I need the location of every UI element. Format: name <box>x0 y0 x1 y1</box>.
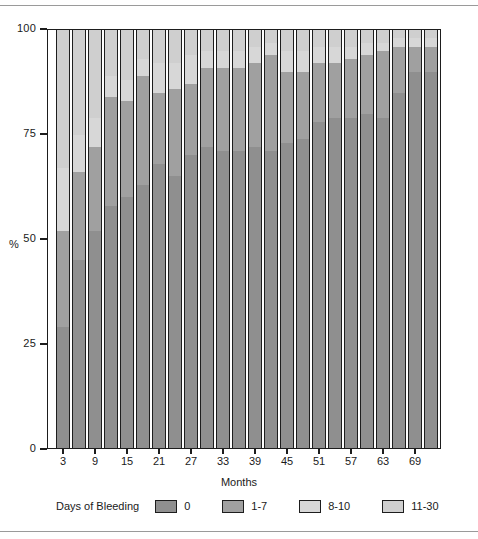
y-axis-tick-label: 0 <box>0 443 36 454</box>
bar-segment <box>313 63 325 122</box>
bar[interactable] <box>120 30 134 448</box>
legend-item[interactable]: 0 <box>155 500 190 513</box>
bar-segment <box>105 76 117 97</box>
bar-segment <box>105 30 117 76</box>
bar-segment <box>89 30 101 118</box>
x-axis-tick-mark <box>126 449 128 454</box>
legend-swatch <box>299 500 321 513</box>
bar[interactable] <box>264 30 278 448</box>
bar[interactable] <box>360 30 374 448</box>
bar-segment <box>169 89 181 177</box>
bar[interactable] <box>72 30 86 448</box>
bar-segment <box>57 30 69 168</box>
x-axis-tick-mark <box>350 449 352 454</box>
x-axis-tick-label: 51 <box>304 455 334 468</box>
bar-segment <box>361 43 373 56</box>
bar-segment <box>361 55 373 114</box>
x-axis-tick-label: 9 <box>80 455 110 468</box>
bar-segment <box>169 30 181 63</box>
bar[interactable] <box>168 30 182 448</box>
bar-segment <box>297 30 309 51</box>
bar-segment <box>57 231 69 327</box>
bar-segment <box>409 38 421 46</box>
bar-segment <box>345 30 357 47</box>
bar[interactable] <box>56 30 70 448</box>
bar[interactable] <box>88 30 102 448</box>
bar-segment <box>409 47 421 72</box>
x-axis-tick-label: 39 <box>240 455 270 468</box>
top-divider-rule <box>0 5 478 6</box>
bar-segment <box>249 30 261 47</box>
x-axis-tick-mark <box>222 449 224 454</box>
bar-segment <box>169 63 181 88</box>
y-axis-tick-mark <box>40 238 47 240</box>
legend-item[interactable]: 8-10 <box>299 500 350 513</box>
bar[interactable] <box>104 30 118 448</box>
bar[interactable] <box>184 30 198 448</box>
bar-segment <box>185 30 197 55</box>
bar-segment <box>185 55 197 84</box>
bar-segment <box>265 43 277 56</box>
bar[interactable] <box>408 30 422 448</box>
bar-segment <box>377 43 389 51</box>
bar-segment <box>313 47 325 64</box>
bar-segment <box>73 30 85 135</box>
x-axis-tick-mark <box>158 449 160 454</box>
bar-segment <box>345 47 357 60</box>
legend-swatch <box>155 500 177 513</box>
bar[interactable] <box>216 30 230 448</box>
x-axis-tick-mark <box>382 449 384 454</box>
x-axis-tick-label: 45 <box>272 455 302 468</box>
bar-segment <box>121 197 133 448</box>
x-axis-tick-mark <box>62 449 64 454</box>
bar-segment <box>233 51 245 68</box>
legend-swatch <box>382 500 404 513</box>
bar-segment <box>329 47 341 64</box>
bar[interactable] <box>376 30 390 448</box>
bar-segment <box>281 72 293 143</box>
bar[interactable] <box>200 30 214 448</box>
bar[interactable] <box>344 30 358 448</box>
bar-segment <box>297 139 309 448</box>
bar-segment <box>345 118 357 448</box>
x-axis-tick-mark <box>414 449 416 454</box>
y-axis-tick-mark <box>40 448 47 450</box>
bar[interactable] <box>312 30 326 448</box>
bar[interactable] <box>424 30 438 448</box>
bar[interactable] <box>328 30 342 448</box>
y-axis-tick-mark <box>40 28 47 30</box>
bar-segment <box>137 185 149 448</box>
bar-segment <box>217 68 229 152</box>
bar-segment <box>393 93 405 448</box>
bar-segment <box>153 93 165 164</box>
bar-segment <box>249 147 261 448</box>
legend-item[interactable]: 1-7 <box>222 500 267 513</box>
bar[interactable] <box>248 30 262 448</box>
bar-segment <box>137 76 149 185</box>
bar-segment <box>329 30 341 47</box>
bar-segment <box>233 30 245 51</box>
bar[interactable] <box>392 30 406 448</box>
bar-segment <box>121 101 133 197</box>
x-axis-title: Months <box>0 476 478 488</box>
legend-item[interactable]: 11-30 <box>382 500 438 513</box>
bar-segment <box>297 51 309 72</box>
bar-segment <box>425 47 437 72</box>
bar[interactable] <box>152 30 166 448</box>
x-axis-tick-label: 27 <box>176 455 206 468</box>
y-axis-tick-label: 25 <box>0 338 36 349</box>
bar[interactable] <box>136 30 150 448</box>
bar-segment <box>281 30 293 51</box>
bar-segment <box>265 55 277 151</box>
bar-segment <box>153 164 165 448</box>
bar[interactable] <box>280 30 294 448</box>
x-axis-tick-labels: 3915212733394551576369 <box>47 455 441 469</box>
bar-segment <box>265 30 277 43</box>
bar-segment <box>313 30 325 47</box>
bar[interactable] <box>296 30 310 448</box>
bar-segment <box>73 135 85 173</box>
bar-segment <box>105 206 117 448</box>
bar-segment <box>249 63 261 147</box>
bar[interactable] <box>232 30 246 448</box>
bar-segment <box>377 118 389 448</box>
